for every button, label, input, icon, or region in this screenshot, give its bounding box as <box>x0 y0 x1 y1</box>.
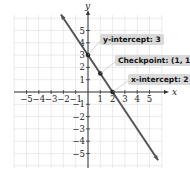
x-tick-label: −2 <box>57 94 70 104</box>
x-tick-label: 1 <box>98 94 103 104</box>
x-tick-label: 4 <box>134 94 139 104</box>
x-axis-arrow-icon <box>164 90 169 94</box>
x-tick-label: −5 <box>20 94 33 104</box>
y-axis-label: y <box>84 1 91 11</box>
y-tick-label: −3 <box>72 124 85 134</box>
y-tick-label: −2 <box>72 112 85 122</box>
y-tick-label: −1 <box>72 99 85 109</box>
y-tick-label: 1 <box>80 75 85 85</box>
point-x-intercept <box>110 90 115 95</box>
x-tick-label: −4 <box>33 94 46 104</box>
y-tick-label: −5 <box>72 149 85 159</box>
y-tick-label: −4 <box>72 136 85 146</box>
x-axis-label: x <box>172 87 177 97</box>
x-tick-label: −3 <box>45 94 58 104</box>
y-tick-label: 3 <box>80 50 85 60</box>
y-tick-label: 2 <box>80 62 85 72</box>
annotation-checkpoint: Checkpoint: (1, 1.5) <box>115 55 190 66</box>
x-tick-label: 5 <box>147 94 152 104</box>
x-tick-label: 3 <box>122 94 127 104</box>
annotation-y-intercept: y-intercept: 3 <box>100 34 164 45</box>
y-tick-label: 5 <box>80 26 85 36</box>
coordinate-plane: xy−5−4−3−2−112345−5−4−3−2−112345 <box>0 0 190 175</box>
annotation-x-intercept: x-intercept: 2 <box>128 74 190 85</box>
leader-line <box>113 80 129 92</box>
